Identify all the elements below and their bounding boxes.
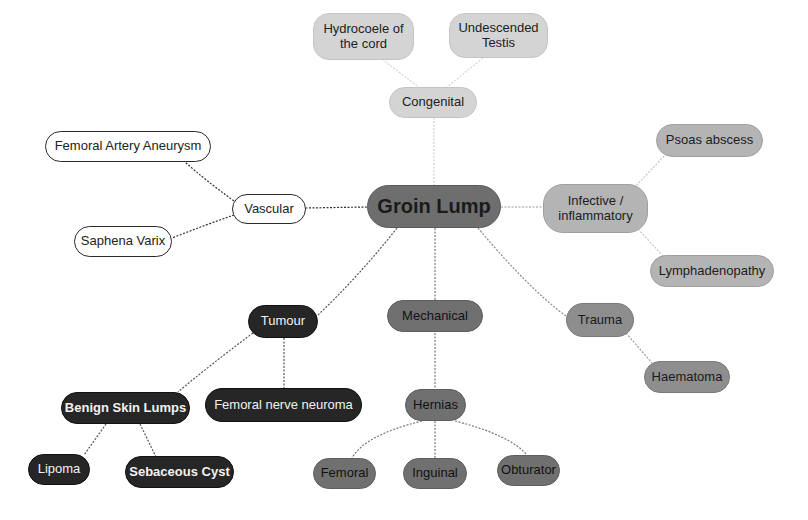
- node-femoral-artery-aneurysm[interactable]: Femoral Artery Aneurysm: [45, 131, 211, 162]
- node-saphena-varix[interactable]: Saphena Varix: [74, 226, 172, 257]
- node-mechanical[interactable]: Mechanical: [387, 300, 483, 332]
- edge-root-trauma: [478, 228, 566, 316]
- edge-benign-sebaceous: [140, 424, 156, 457]
- node-femoral-hernia[interactable]: Femoral: [313, 458, 376, 489]
- edge-tumour-benign: [178, 333, 253, 392]
- node-lipoma[interactable]: Lipoma: [28, 454, 90, 485]
- node-sebaceous-cyst[interactable]: Sebaceous Cyst: [125, 456, 234, 488]
- node-haematoma[interactable]: Haematoma: [644, 361, 730, 393]
- edge-root-tumour: [318, 228, 397, 315]
- edge-hernias-obturator: [455, 421, 527, 455]
- edge-congenital-undescended: [446, 58, 483, 88]
- node-femoral-nerve-neuroma[interactable]: Femoral nerve neuroma: [205, 388, 362, 422]
- node-obturator-hernia[interactable]: Obturator: [497, 455, 560, 486]
- edge-benign-lipoma: [84, 424, 106, 455]
- edge-infective-psoas: [634, 155, 665, 188]
- node-congenital[interactable]: Congenital: [389, 87, 477, 118]
- node-inguinal-hernia[interactable]: Inguinal: [403, 458, 467, 489]
- edge-vascular-femoral-artery-aneurysm: [185, 162, 234, 201]
- node-psoas-abscess[interactable]: Psoas abscess: [656, 124, 763, 157]
- node-trauma[interactable]: Trauma: [566, 303, 634, 337]
- node-tumour[interactable]: Tumour: [248, 305, 318, 338]
- edge-trauma-haematoma: [626, 333, 652, 363]
- edge-congenital-hydrocoele: [383, 60, 420, 88]
- edge-infective-lymphadenopathy: [638, 229, 663, 256]
- node-lymphadenopathy[interactable]: Lymphadenopathy: [650, 255, 774, 287]
- node-hydrocoele-of-the-cord[interactable]: Hydrocoele of the cord: [313, 13, 414, 60]
- edge-hernias-femoral: [352, 421, 422, 458]
- node-groin-lump[interactable]: Groin Lump: [367, 185, 501, 228]
- edge-vascular-saphena-varix: [172, 215, 234, 238]
- node-benign-skin-lumps[interactable]: Benign Skin Lumps: [61, 392, 190, 424]
- node-vascular[interactable]: Vascular: [232, 194, 306, 224]
- edge-root-vascular: [306, 207, 367, 208]
- node-hernias[interactable]: Hernias: [405, 389, 466, 421]
- node-undescended-testis[interactable]: Undescended Testis: [449, 13, 548, 58]
- node-infective-inflammatory[interactable]: Infective / inflammatory: [543, 184, 648, 233]
